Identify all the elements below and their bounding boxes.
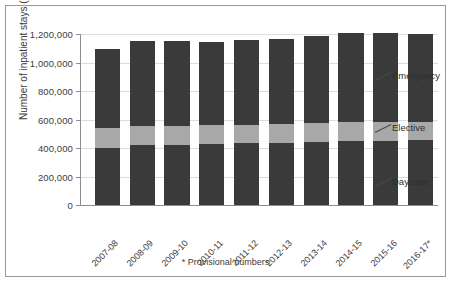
bar-segment-daycase[interactable] (164, 145, 189, 205)
y-tick-label: 400,000 (38, 143, 73, 154)
y-axis-title: Number of inpatient stays (CIS) (18, 0, 29, 120)
y-tick-label: 600,000 (38, 114, 73, 125)
bar-segment-elective[interactable] (234, 125, 259, 144)
bar-2009-10[interactable] (164, 41, 189, 205)
bar-2010-11[interactable] (199, 42, 224, 205)
bar-segment-emergency[interactable] (199, 42, 224, 125)
bar-segment-emergency[interactable] (338, 33, 363, 122)
callout-label-daycase: Daycase (392, 176, 429, 187)
bar-segment-elective[interactable] (304, 123, 329, 142)
bar-segment-daycase[interactable] (199, 144, 224, 205)
bar-segment-daycase[interactable] (373, 141, 398, 205)
chart-frame: Number of inpatient stays (CIS) 0200,000… (5, 5, 446, 277)
y-tick-label: 0 (68, 200, 73, 211)
bar-segment-emergency[interactable] (130, 41, 155, 126)
chart-figure: Number of inpatient stays (CIS) 0200,000… (0, 0, 453, 284)
y-tick-label: 800,000 (38, 86, 73, 97)
y-tick-label: 1,200,000 (30, 29, 73, 40)
bar-segment-emergency[interactable] (304, 36, 329, 122)
bar-segment-emergency[interactable] (269, 39, 294, 124)
bar-segment-elective[interactable] (269, 124, 294, 143)
bar-segment-daycase[interactable] (408, 140, 433, 205)
bar-segment-elective[interactable] (95, 128, 120, 148)
bar-segment-daycase[interactable] (304, 142, 329, 205)
bar-segment-emergency[interactable] (95, 49, 120, 127)
bar-segment-emergency[interactable] (164, 41, 189, 125)
callout-label-emergency: Emergency (392, 70, 440, 81)
bar-2008-09[interactable] (130, 41, 155, 205)
y-tick-label: 200,000 (38, 171, 73, 182)
bar-2007-08[interactable] (95, 49, 120, 205)
footnote: * Provisional numbers (6, 257, 445, 267)
bar-segment-elective[interactable] (199, 125, 224, 144)
bar-segment-daycase[interactable] (269, 143, 294, 205)
bar-segment-elective[interactable] (164, 126, 189, 145)
bar-2012-13[interactable] (269, 39, 294, 205)
bar-segment-daycase[interactable] (130, 145, 155, 205)
bar-segment-emergency[interactable] (234, 40, 259, 125)
bar-segment-daycase[interactable] (234, 143, 259, 205)
bar-2014-15[interactable] (338, 33, 363, 205)
bar-segment-daycase[interactable] (95, 148, 120, 205)
callout-label-elective: Elective (392, 122, 425, 133)
bar-segment-elective[interactable] (338, 122, 363, 141)
y-tick-label: 1,000,000 (30, 57, 73, 68)
bar-2011-12[interactable] (234, 40, 259, 205)
bar-segment-daycase[interactable] (338, 141, 363, 205)
bar-2013-14[interactable] (304, 36, 329, 205)
bar-segment-elective[interactable] (130, 126, 155, 145)
